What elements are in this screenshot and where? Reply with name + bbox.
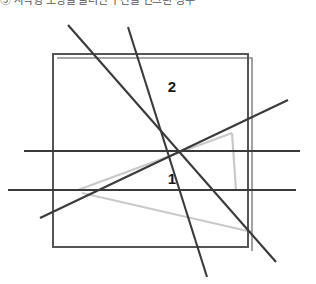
geometry-diagram — [0, 0, 316, 284]
region-label-1: 1 — [168, 171, 176, 186]
crossing-lines — [8, 25, 300, 277]
line-diagonal-rising — [40, 100, 288, 218]
guide-triangle — [78, 133, 252, 232]
guide-line-upper — [78, 133, 232, 190]
figure-root: ⑤ 사각형 모양을 둘러싼 구간을 연그린 정부 2 1 — [0, 0, 316, 284]
square-outline-duplicate — [57, 58, 252, 251]
guide-line-right — [232, 133, 236, 190]
guide-line-diagonal-shadow — [82, 193, 252, 232]
region-label-2: 2 — [168, 79, 176, 94]
line-diagonal-main — [68, 25, 276, 262]
